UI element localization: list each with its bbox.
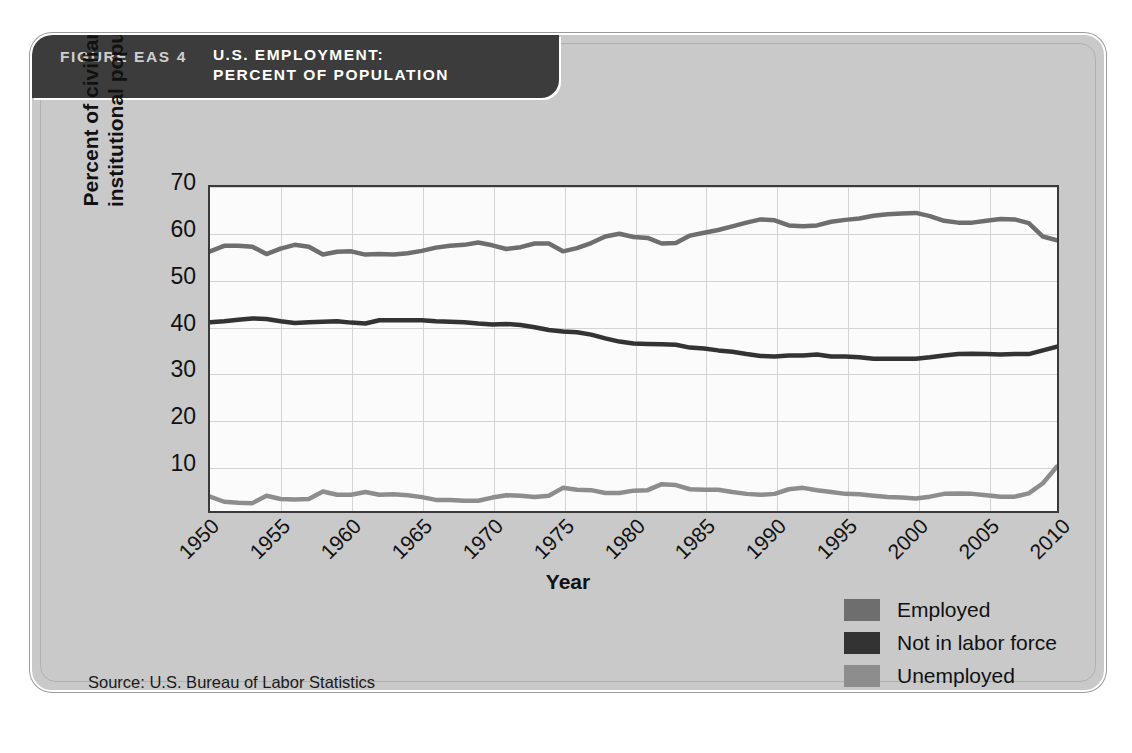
y-tick-60: 60 (150, 216, 196, 243)
series-line-not-in-labor-force (210, 318, 1057, 358)
y-axis-title-line1: Percent of civilian non-institutional po… (79, 33, 127, 207)
y-tick-20: 20 (150, 403, 196, 430)
y-tick-40: 40 (150, 310, 196, 337)
y-tick-30: 30 (150, 356, 196, 383)
x-tick-2005: 2005 (954, 514, 1004, 564)
figure-title-line1: U.S. EMPLOYMENT: (213, 46, 384, 63)
x-tick-2000: 2000 (883, 514, 933, 564)
legend-swatch (844, 665, 880, 687)
y-tick-10: 10 (150, 450, 196, 477)
legend-item: Not in labor force (844, 626, 1057, 659)
legend-label: Unemployed (897, 664, 1015, 688)
legend-label: Employed (897, 598, 990, 622)
legend-swatch (844, 599, 880, 621)
chart-legend: EmployedNot in labor forceUnemployed (844, 593, 1057, 692)
x-tick-2010: 2010 (1025, 514, 1075, 564)
series-line-employed (210, 213, 1057, 255)
x-tick-1980: 1980 (600, 514, 650, 564)
chart-area: Percent of civilian non-institutional po… (32, 98, 1104, 690)
x-tick-1975: 1975 (529, 514, 579, 564)
x-tick-1970: 1970 (458, 514, 508, 564)
legend-label: Not in labor force (897, 631, 1057, 655)
x-axis-title: Year (32, 570, 1104, 594)
figure-title: U.S. EMPLOYMENT: PERCENT OF POPULATION (213, 45, 449, 85)
x-tick-1960: 1960 (316, 514, 366, 564)
source-note: Source: U.S. Bureau of Labor Statistics (88, 673, 375, 692)
series-line-unemployed (210, 467, 1057, 504)
figure-root: FIGURE EAS 4 U.S. EMPLOYMENT: PERCENT OF… (0, 0, 1132, 753)
figure-title-line2: PERCENT OF POPULATION (213, 66, 449, 83)
x-tick-1950: 1950 (174, 514, 224, 564)
legend-swatch (844, 632, 880, 654)
y-tick-50: 50 (150, 263, 196, 290)
series-lines (210, 187, 1057, 511)
x-tick-1955: 1955 (245, 514, 295, 564)
x-tick-1985: 1985 (670, 514, 720, 564)
legend-item: Unemployed (844, 659, 1057, 692)
x-tick-1990: 1990 (741, 514, 791, 564)
y-axis-title: Percent of civilian non-institutional po… (78, 33, 128, 216)
legend-item: Employed (844, 593, 1057, 626)
x-tick-1995: 1995 (812, 514, 862, 564)
figure-card: FIGURE EAS 4 U.S. EMPLOYMENT: PERCENT OF… (30, 33, 1106, 692)
plot-area (208, 185, 1059, 513)
y-tick-70: 70 (150, 169, 196, 196)
x-tick-1965: 1965 (387, 514, 437, 564)
